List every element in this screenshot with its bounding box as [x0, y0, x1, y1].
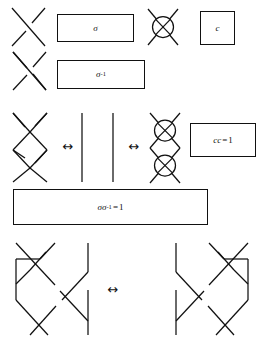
- cc-relation-box: cc=1: [190, 123, 256, 157]
- diagram-vectors: [0, 0, 265, 352]
- arrow-glyph: ↔: [108, 283, 119, 296]
- sigma-label: σ: [93, 24, 97, 33]
- circled-double-crossing-icon: [150, 113, 180, 183]
- cc-lhs: cc: [213, 136, 221, 145]
- sigma-inverse-box: σ-1: [57, 60, 145, 89]
- sigma-inverse-exponent: -1: [101, 71, 106, 78]
- circled-crossing-icon: [148, 9, 178, 45]
- c-box: c: [200, 11, 235, 45]
- c-label: c: [216, 24, 220, 33]
- relation-arrow-left: ↔: [58, 139, 78, 153]
- sigma-box: σ: [57, 14, 134, 42]
- sigma-sigma-inverse-relation-box: σσ-1=1: [13, 189, 208, 225]
- double-crossing-diamond-icon: [13, 113, 47, 182]
- figure-canvas: σ c σ-1 cc=1 σσ-1=1 ↔ ↔ ↔: [0, 0, 265, 352]
- cc-rhs: 1: [228, 136, 233, 145]
- sigma-crossing-icon: [12, 8, 45, 46]
- ssi-rhs: 1: [119, 203, 124, 212]
- arrow-glyph: ↔: [63, 140, 74, 153]
- ssi-equals: =: [112, 203, 119, 212]
- braid-relation-arrow: ↔: [103, 282, 123, 296]
- relation-arrow-right: ↔: [124, 139, 144, 153]
- braid-right-icon: [176, 243, 248, 335]
- arrow-glyph: ↔: [129, 140, 140, 153]
- braid-left-icon: [16, 243, 88, 335]
- sigma-inverse-crossing-icon: [13, 52, 46, 90]
- cc-equals: =: [221, 136, 228, 145]
- identity-strands-icon: [82, 113, 113, 182]
